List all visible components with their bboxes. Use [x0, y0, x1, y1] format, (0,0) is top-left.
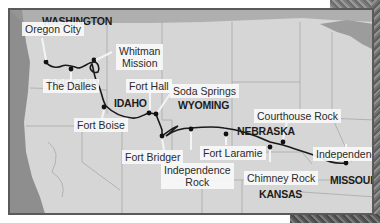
dot-soda-springs [154, 112, 159, 117]
dot-courthouse-rock [281, 140, 286, 145]
dot-fort-hall [147, 111, 152, 116]
label-indrock-line2: Rock [185, 176, 209, 188]
dot-fort-boise [102, 105, 107, 110]
label-oregon-city: Oregon City [22, 22, 84, 36]
dot-the-dalles [69, 67, 74, 72]
state-label-wyoming: WYOMING [178, 99, 229, 111]
label-independence-rock: Independence Rock [161, 163, 234, 189]
label-chimney-rock: Chimney Rock [244, 171, 318, 185]
dot-independence-rock [189, 127, 194, 132]
state-label-kansas: KANSAS [259, 188, 302, 200]
state-label-nebraska: NEBRASKA [237, 125, 295, 137]
state-label-missouri: MISSOURI [330, 174, 374, 186]
dot-fort-laramie [224, 132, 229, 137]
label-whitman-line1: Whitman [119, 45, 160, 57]
state-label-idaho: IDAHO [114, 97, 147, 109]
label-whitman-line2: Mission [122, 57, 158, 69]
label-soda-springs: Soda Springs [170, 84, 239, 98]
label-whitman-mission: Whitman Mission [116, 44, 163, 70]
label-indrock-line1: Independence [164, 164, 231, 176]
label-independence: Independence [313, 147, 374, 161]
dot-chimney-rock [268, 145, 273, 150]
label-fort-hall: Fort Hall [126, 79, 172, 93]
label-fort-boise: Fort Boise [74, 118, 128, 132]
label-fort-bridger: Fort Bridger [122, 150, 183, 164]
dot-fort-bridger [160, 134, 165, 139]
oregon-trail-map: WASHINGTON OREGON IDAHO WYOMING NEBRASKA… [8, 8, 374, 215]
dot-oregon-city [44, 60, 49, 65]
label-the-dalles: The Dalles [43, 79, 99, 93]
dot-whitman-mission [92, 58, 97, 63]
label-fort-laramie: Fort Laramie [200, 146, 266, 160]
dot-independence [344, 161, 349, 166]
stone-texture-bottom [290, 214, 380, 223]
label-courthouse-rock: Courthouse Rock [254, 109, 341, 123]
